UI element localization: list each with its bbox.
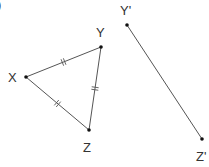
label-y: Y — [96, 25, 105, 40]
point-y — [99, 45, 103, 49]
congruence-tick-icon — [92, 87, 99, 88]
point-yp — [125, 23, 129, 27]
segment-xz — [26, 77, 89, 130]
geometry-diagram: ) XYZY'Z' — [0, 0, 209, 167]
label-zp: Z' — [196, 149, 206, 164]
segment-yz — [89, 47, 101, 130]
congruence-tick-icon — [91, 89, 98, 90]
point-x — [24, 75, 28, 79]
label-z: Z — [83, 140, 91, 155]
corner-mark: ) — [0, 0, 1, 12]
label-yp: Y' — [120, 3, 131, 18]
segment-xy — [26, 47, 101, 77]
points — [24, 23, 204, 141]
segments — [26, 25, 202, 139]
point-zp — [200, 137, 204, 141]
label-x: X — [8, 70, 17, 85]
segment-ypzp — [127, 25, 202, 139]
labels: XYZY'Z' — [8, 3, 206, 164]
point-z — [87, 128, 91, 132]
